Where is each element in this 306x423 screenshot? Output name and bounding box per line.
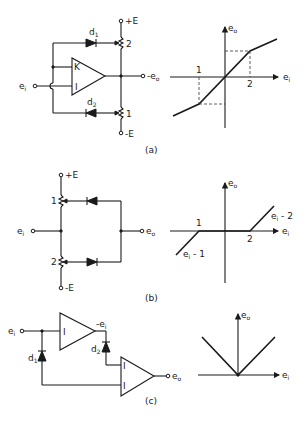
supply-pos-label: +E [125,16,139,26]
breakpoint-2-label: 2 [247,79,253,89]
diode-icon [102,342,110,352]
caption-a: (a) [145,145,158,155]
input-terminal [31,229,35,233]
diode-d2-label: d2 [87,97,97,108]
panel-c-circuit: ei I -ei d2 d1 I I eo [8,313,182,396]
y-axis-label: eo [228,178,238,189]
diode-icon [87,197,97,205]
input-label: ei [19,81,27,92]
pot-label-1: 1 [51,196,57,206]
amp2-input-bottom: I [123,381,126,391]
output-terminal [141,74,145,78]
input-terminal [20,329,24,333]
caption-b: (b) [145,293,158,303]
diode-icon [87,258,97,266]
x-axis-label: ei [283,72,291,83]
supply-neg-label: -E [125,129,134,139]
x-axis-label: ei [282,370,290,381]
pot-label-2: 2 [126,39,132,49]
output-label: eo [172,371,182,382]
output-label: -eo [147,71,160,82]
panel-b-graph: eo ei 1 2 ei - 1 ei - 2 [170,178,293,283]
diode-icon [38,351,46,361]
diode-icon [86,109,96,117]
supply-pos-terminal [59,173,63,177]
supply-pos-label: +E [65,170,79,180]
panel-a-circuit: +E 2 d1 ei K I -eo [19,16,160,139]
diode-d1-label: d1 [89,27,99,38]
amp-input-i: I [75,82,78,92]
input-label: ei [17,226,25,237]
supply-pos-terminal [119,19,123,23]
amplifier-icon [121,357,154,396]
diode-icon [86,39,96,47]
x-axis-label: ei [282,226,290,237]
supply-neg-label: -E [65,283,74,293]
output-terminal [140,229,144,233]
figure-canvas: +E 2 d1 ei K I -eo [0,0,306,423]
y-axis-label: eo [228,23,238,34]
breakpoint-2-label: 2 [247,234,253,244]
supply-neg-terminal [59,286,63,290]
output-label: eo [146,226,156,237]
diode-d1-label: d1 [28,353,38,364]
supply-neg-terminal [119,131,123,135]
pot-label-1: 1 [126,109,132,119]
panel-c-graph: eo ei [198,310,290,381]
input-label: ei [8,326,16,337]
breakpoint-1-label: 1 [196,218,202,228]
segment-neg-label: ei - 1 [183,249,205,260]
segment-pos-label: ei - 2 [271,211,293,222]
y-axis-label: eo [241,310,251,321]
amp2-input-top: I [123,361,126,371]
inverter-output-label: -ei [96,319,107,330]
amp1-input-label: I [63,327,66,337]
diode-d2-label: d2 [91,344,101,355]
pot-label-2: 2 [51,257,57,267]
breakpoint-1-label: 1 [196,65,202,75]
caption-c: (c) [145,396,157,406]
panel-b-circuit: +E 1 2 -E ei eo [17,170,156,293]
input-terminal [33,84,37,88]
panel-a-graph: eo ei 1 2 [170,23,291,128]
output-terminal [166,374,170,378]
amp-input-k: K [74,62,81,72]
